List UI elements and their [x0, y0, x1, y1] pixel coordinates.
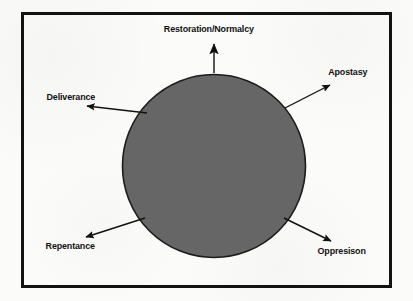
arrow-repentance: [86, 218, 145, 237]
arrow-deliverance: [87, 106, 147, 113]
arrow-apostasy: [285, 85, 330, 108]
central-circle: [123, 75, 306, 258]
arrow-oppresison: [284, 218, 331, 241]
label-oppresison: Oppresison: [318, 246, 366, 256]
label-apostasy: Apostasy: [328, 67, 367, 77]
diagram-page: Restoration/Normalcy Apostasy Oppresison…: [0, 0, 413, 301]
label-restoration: Restoration/Normalcy: [164, 24, 254, 34]
label-deliverance: Deliverance: [47, 92, 96, 102]
label-repentance: Repentance: [46, 241, 95, 251]
